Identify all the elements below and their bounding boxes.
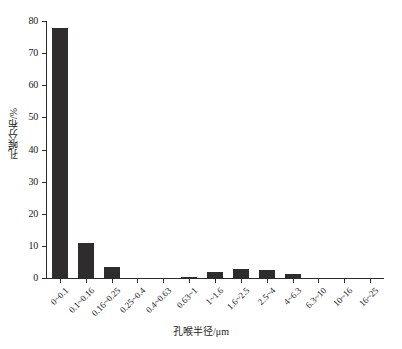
x-tick bbox=[344, 278, 345, 283]
bar bbox=[78, 243, 94, 278]
x-tick bbox=[318, 278, 319, 283]
bar bbox=[233, 269, 249, 278]
x-tick bbox=[293, 278, 294, 283]
y-tick-label: 30 bbox=[8, 177, 38, 187]
y-tick-label: 70 bbox=[8, 48, 38, 58]
y-axis-title: 孔喉分布/% bbox=[8, 108, 24, 159]
x-tick bbox=[112, 278, 113, 283]
bar bbox=[285, 274, 301, 278]
y-tick-label: 80 bbox=[8, 16, 38, 26]
bar-chart-figure: 01020304050607080 0~0.10.1~0.160.16~0.25… bbox=[0, 0, 402, 349]
y-tick-label: 10 bbox=[8, 241, 38, 251]
x-tick bbox=[163, 278, 164, 283]
bar bbox=[104, 267, 120, 278]
y-tick-label: 20 bbox=[8, 209, 38, 219]
bar bbox=[181, 277, 197, 278]
bar bbox=[52, 28, 68, 278]
x-tick bbox=[370, 278, 371, 283]
bar bbox=[259, 270, 275, 278]
y-tick-label: 0 bbox=[8, 273, 38, 283]
x-tick bbox=[137, 278, 138, 283]
x-axis-title: 孔喉半径/μm bbox=[0, 326, 402, 337]
x-tick bbox=[267, 278, 268, 283]
x-tick bbox=[215, 278, 216, 283]
x-tick bbox=[60, 278, 61, 283]
bar bbox=[207, 272, 223, 278]
y-tick bbox=[42, 278, 47, 279]
x-tick bbox=[86, 278, 87, 283]
x-tick bbox=[241, 278, 242, 283]
plot-area bbox=[47, 21, 383, 278]
y-tick-label: 60 bbox=[8, 80, 38, 90]
x-tick bbox=[189, 278, 190, 283]
